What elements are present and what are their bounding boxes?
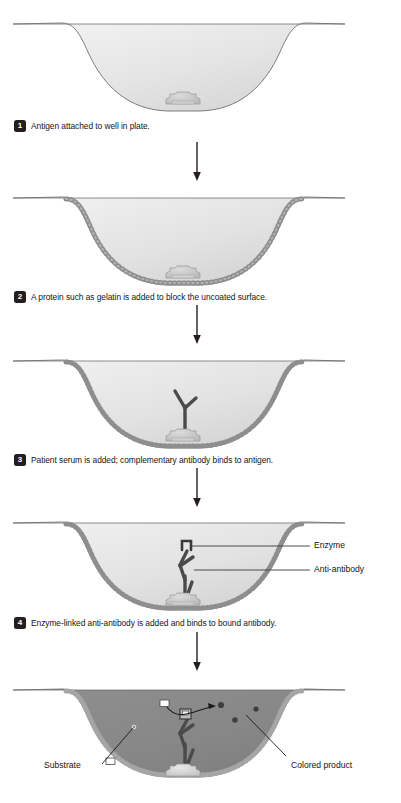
well-illustration-5 bbox=[0, 676, 401, 803]
well-illustration-1 bbox=[0, 0, 401, 118]
step-badge-2: 2 bbox=[14, 291, 26, 303]
down-arrow-icon-2 bbox=[190, 305, 204, 345]
callout-substrate: Substrate bbox=[44, 761, 81, 770]
panel-step-3 bbox=[0, 348, 401, 456]
step-badge-4: 4 bbox=[14, 617, 26, 629]
down-arrow-icon-1 bbox=[190, 142, 204, 182]
panel-step-2 bbox=[0, 185, 401, 293]
step-label-4: Enzyme-linked anti-antibody is added and… bbox=[31, 619, 276, 627]
down-arrow-icon-4 bbox=[190, 632, 204, 672]
callout-anti-antibody: Anti-antibody bbox=[314, 565, 364, 574]
well-illustration-2 bbox=[0, 185, 401, 293]
callout-enzyme: Enzyme bbox=[314, 541, 345, 550]
well-illustration-3 bbox=[0, 348, 401, 456]
caption-step-4: 4 Enzyme-linked anti-antibody is added a… bbox=[14, 617, 276, 629]
step-label-3: Patient serum is added; complementary an… bbox=[31, 456, 273, 464]
antigen-icon bbox=[166, 266, 200, 278]
step-badge-1: 1 bbox=[14, 120, 26, 132]
caption-step-3: 3 Patient serum is added; complementary … bbox=[14, 454, 273, 466]
step-label-1: Antigen attached to well in plate. bbox=[31, 122, 150, 130]
step-badge-3: 3 bbox=[14, 454, 26, 466]
callout-colored-product: Colored product bbox=[291, 761, 352, 770]
antigen-icon bbox=[166, 92, 200, 104]
antigen-icon bbox=[166, 429, 200, 441]
panel-step-1 bbox=[0, 0, 401, 118]
down-arrow-icon-3 bbox=[190, 468, 204, 508]
panel-step-5 bbox=[0, 676, 401, 803]
caption-step-2: 2 A protein such as gelatin is added to … bbox=[14, 291, 267, 303]
caption-step-1: 1 Antigen attached to well in plate. bbox=[14, 120, 150, 132]
step-label-2: A protein such as gelatin is added to bl… bbox=[31, 293, 267, 301]
antigen-icon bbox=[166, 593, 200, 605]
antigen-icon bbox=[166, 764, 200, 776]
